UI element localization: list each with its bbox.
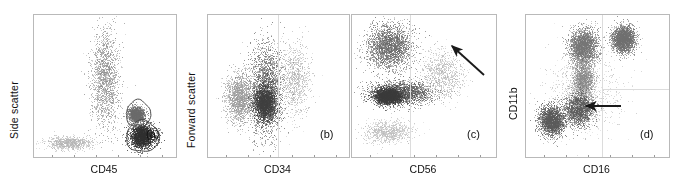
panel-a-ylabel: Side scatter xyxy=(8,34,20,139)
panel-a-xticks xyxy=(34,154,176,158)
panel-c-xlabel: CD56 xyxy=(351,163,495,175)
panel-b: Forward scatter (b) CD34 xyxy=(180,0,350,186)
panel-c-tag: (c) xyxy=(467,128,480,140)
panel-a-xlabel: CD45 xyxy=(33,163,175,175)
panel-c-xticks xyxy=(352,154,496,158)
panel-a-tag: (a) xyxy=(146,128,159,140)
panel-b-xlabel: CD34 xyxy=(207,163,348,175)
panel-b-tag: (b) xyxy=(320,128,333,140)
panel-d: CD11b (d) CD16 xyxy=(500,0,680,186)
panel-b-gridline-vertical xyxy=(278,15,279,157)
panel-b-xticks xyxy=(208,154,349,158)
panel-d-ylabel: CD11b xyxy=(507,50,519,120)
panel-d-tag: (d) xyxy=(640,128,653,140)
panel-d-xlabel: CD16 xyxy=(525,163,668,175)
panel-c: (c) CD56 xyxy=(350,0,500,186)
figure-flow-cytometry-panels: Side scatter (a) CD45 Forward scatter (b… xyxy=(0,0,680,186)
panel-b-ylabel: Forward scatter xyxy=(185,28,197,148)
panel-d-xticks xyxy=(526,154,669,158)
panel-a: Side scatter (a) CD45 xyxy=(0,0,180,186)
